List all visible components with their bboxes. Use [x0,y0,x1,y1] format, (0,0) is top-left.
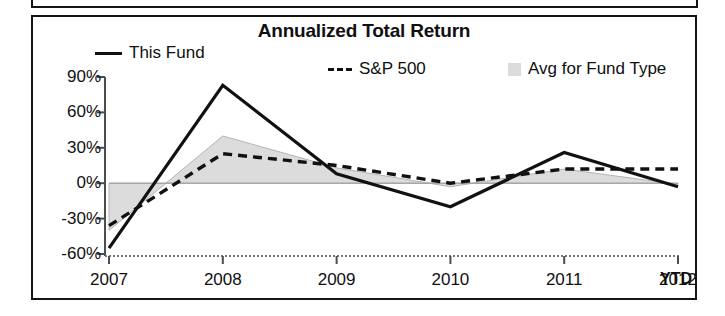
x-tick-label: 2009 [318,270,356,290]
x-tick-label: 2007 [90,270,128,290]
plot-area [33,17,699,302]
x-tick-label: 2008 [204,270,242,290]
y-axis-tick-labels: 90%60%30%0%-30%-60% [37,17,101,302]
y-tick-label: -60% [37,244,101,264]
annualized-total-return-chart: Annualized Total Return This Fund S&P 50… [31,15,697,300]
clipped-box-above-chart [31,0,698,8]
y-tick-label: 30% [37,138,101,158]
y-tick-label: 60% [37,102,101,122]
x-tick-label: 2011 [546,270,583,290]
plot-svg [33,17,699,302]
y-tick-label: 0% [37,173,101,193]
x-tick-label: 2010 [431,270,469,290]
x-tick-label: 2012 [659,270,697,290]
y-tick-label: -30% [37,209,101,229]
y-tick-label: 90% [37,67,101,87]
